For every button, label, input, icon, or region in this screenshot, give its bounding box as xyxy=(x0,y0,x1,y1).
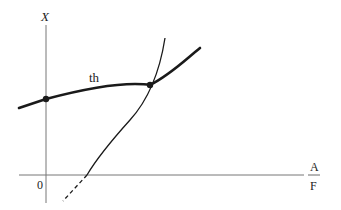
y-intercept-point xyxy=(43,96,49,102)
intersection-point xyxy=(147,82,153,88)
steep-curve-dashed-extension xyxy=(63,175,87,201)
x-axis-label-denominator: F xyxy=(310,179,317,193)
x-axis-label-numerator: A xyxy=(310,160,319,174)
steep-curve xyxy=(87,38,165,175)
th-curve-label: th xyxy=(89,70,100,85)
y-axis-label: X xyxy=(40,9,50,24)
origin-label: 0 xyxy=(37,178,43,192)
diagram-canvas: X 0 A F th xyxy=(0,0,341,210)
